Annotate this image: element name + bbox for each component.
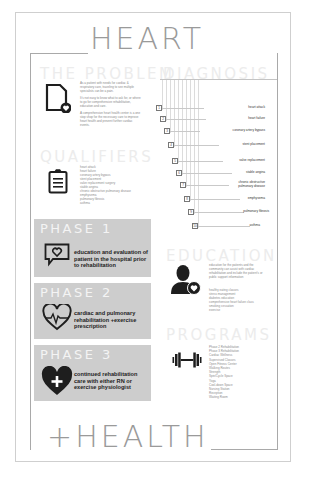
education-title: EDUCATION <box>166 248 277 264</box>
problem-paragraph: It's not easy to know what to ask for, o… <box>80 96 142 109</box>
inner-frame-top-line <box>30 53 96 54</box>
person-heart-icon <box>170 264 202 296</box>
diagnosis-label: heart attack <box>200 106 265 110</box>
qualifiers-list: heart attack heart failure coronary arte… <box>80 165 131 205</box>
diagnosis-label: heart failure <box>200 117 265 121</box>
diagnosis-label: stent placement <box>200 143 265 147</box>
phase-title: PHASE 1 <box>40 221 113 236</box>
heartbeat-icon <box>42 304 72 331</box>
chat-heart-icon <box>44 243 70 267</box>
education-intro: education for the patients and the commu… <box>209 263 267 279</box>
document-heart-icon <box>45 83 71 113</box>
inner-frame-left-line <box>30 53 31 450</box>
phase-3-card: PHASE 3 continued rehabilitation care wi… <box>34 345 151 401</box>
diagnosis-label: pulmonary fibrosis <box>200 210 269 214</box>
qualifier-item: asthma <box>80 201 131 205</box>
title-health: +HEALTH <box>45 422 211 452</box>
heart-plus-icon <box>41 366 73 397</box>
phase-description: education and evaluation of patient in t… <box>74 249 150 269</box>
program-item: Waiting Room <box>209 395 239 399</box>
problem-title: THE PROBLEM <box>40 66 175 82</box>
diagnosis-label: coronary artery bypass <box>200 129 265 133</box>
dumbbell-icon <box>172 352 202 368</box>
inner-frame-right-line <box>277 53 278 450</box>
inner-frame-bottom-line <box>199 449 278 450</box>
diagnosis-label: asthma <box>200 224 260 228</box>
diagnosis-label: emphysema <box>200 197 265 201</box>
programs-list: Phase 2 Rehabilitation Phase 3 Rehabilit… <box>209 345 239 400</box>
diagnosis-label: stable angina <box>200 171 265 175</box>
diagnosis-label: valve replacement <box>200 159 265 163</box>
qualifiers-title: QUALIFIERS <box>40 149 153 165</box>
clipboard-icon <box>48 168 68 194</box>
title-heart: HEART <box>88 24 206 54</box>
phase-title: PHASE 2 <box>40 285 113 300</box>
phase-description: continued rehabilitation care with eithe… <box>74 371 150 391</box>
problem-paragraph: A comprehensive heart health center is a… <box>80 111 142 128</box>
phase-1-card: PHASE 1 education and evaluation of pati… <box>34 219 151 277</box>
education-list: healthy eating classes stress management… <box>209 288 254 312</box>
education-item: exercise <box>209 308 254 312</box>
diagnosis-label: chronic obstructive pulmonary disease <box>229 181 265 188</box>
phase-2-card: PHASE 2 cardiac and pulmonary rehabilita… <box>34 283 151 339</box>
phase-title: PHASE 3 <box>40 347 113 362</box>
problem-text: As a patient with needs for cardiac & re… <box>80 81 142 130</box>
phase-description: cardiac and pulmonary rehabilitation +ex… <box>74 310 150 330</box>
problem-paragraph: As a patient with needs for cardiac & re… <box>80 81 142 94</box>
programs-title: PROGRAMS <box>166 327 271 343</box>
